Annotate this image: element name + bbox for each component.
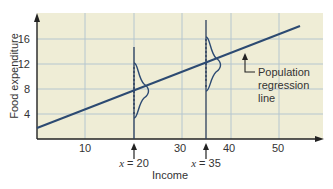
marker-arrow-x20-icon — [131, 143, 137, 150]
marker-label-x35: x = 35 — [190, 157, 221, 169]
annotation-line2: regression — [258, 79, 309, 91]
x-tick-40: 40 — [223, 142, 235, 154]
regression-diagram: 16 12 8 4 10 30 40 50 Food expenditure I… — [0, 0, 333, 189]
x-tick-50: 50 — [272, 142, 284, 154]
y-tick-8: 8 — [24, 83, 30, 95]
x-tick-30: 30 — [174, 142, 186, 154]
annotation-line3: line — [258, 92, 275, 104]
annotation-line1: Population — [258, 66, 310, 78]
marker-label-x20: x = 20 — [118, 157, 149, 169]
marker-val-x20: = 20 — [124, 157, 149, 169]
y-tick-4: 4 — [24, 108, 30, 120]
marker-val-x35: = 35 — [196, 157, 221, 169]
y-axis-label: Food expenditure — [8, 33, 20, 119]
x-axis-label: Income — [152, 169, 188, 181]
x-tick-10: 10 — [79, 142, 91, 154]
marker-arrow-x35-icon — [203, 143, 209, 150]
